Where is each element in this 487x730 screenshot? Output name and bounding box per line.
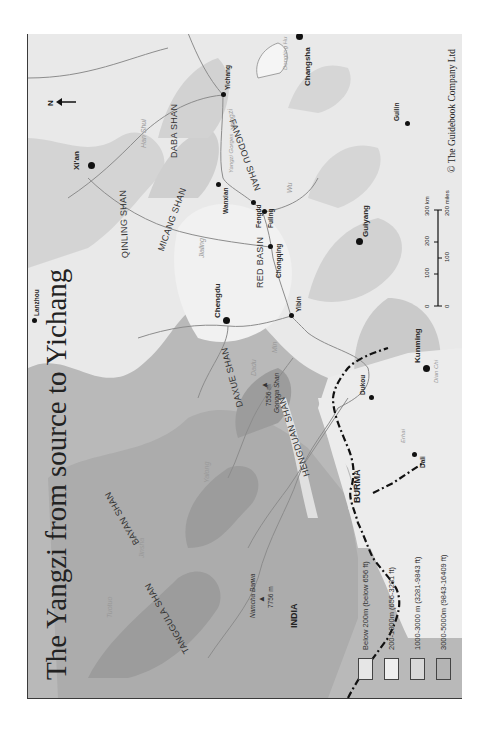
city-label-wanxian: Wanxian [223,188,230,215]
river-label-wu: Wu [286,183,293,194]
city-dot-xian [88,162,95,169]
legend-swatch-1000-3000 [410,658,425,680]
scale-km-tick-0: 0 [424,305,430,308]
city-label-yichang: Yichang [225,65,232,90]
city-dot-yibin [289,313,294,318]
scale-km-tick-300: 300 km [424,196,430,216]
north-arrow-icon [56,96,76,108]
scale-mile-tick-100: 100 [444,252,450,262]
city-label-yibin: Yibin [296,296,303,312]
scale-mile-tick-0: 0 [444,305,450,308]
river-label-jialing: Jialing [198,238,205,258]
range-label-red-basin: RED BASIN [256,237,265,288]
scale-km-tick-200: 200 [424,236,430,246]
range-label-daba-shan: DABA SHAN [170,104,179,158]
city-dot-chengdu [223,317,230,324]
peak-height-gongga: 7556 m [266,384,273,406]
city-label-chengdu: Chengdu [214,283,222,318]
legend-label-200-1000: 200-1000m (656-3281 ft) [387,567,396,650]
city-dot-kunming [423,365,430,372]
river-label-dongting-hu: Dongting Hu [282,37,288,70]
map-frame: The Yangzi from source to Yichang © The … [27,34,462,699]
elevation-legend: Below 200m (below 656 ft) 200-1000m (656… [28,558,462,698]
river-label-han-shui: Han Shui [140,119,147,148]
scale-bar: 0 100 200 300 km 0 100 200 miles [424,208,454,308]
city-label-fengdu: Fengdu [256,205,263,228]
city-label-fuling: Fuling [268,209,275,229]
map-canvas: The Yangzi from source to Yichang © The … [27,34,462,699]
city-label-kunming: Kunming [414,328,422,363]
city-dot-dukou [369,395,374,400]
city-label-guiyang: Guiyang [362,205,370,237]
city-label-dukou: Dukou [360,375,367,395]
legend-label-3000-5000: 3000-5000m (9843-16409 ft) [439,555,448,650]
river-label-jinsha: Jinsha [138,538,145,558]
city-label-changsha: Changsha [304,47,312,86]
city-dot-yichang [221,92,226,97]
river-label-min: Min [271,342,278,353]
city-dot-chongqing [268,244,273,249]
legend-swatch-3000-5000 [436,658,451,680]
legend-label-1000-3000: 1000-3000 m (3281-9843 ft) [413,557,422,650]
river-label-erhai: Erhai [400,429,406,443]
city-dot-guilin [405,121,410,126]
river-label-dian-chi: Dian Chi [433,360,439,383]
city-label-dali: Dali [420,456,427,468]
legend-swatch-200-1000 [384,658,399,680]
legend-label-below-200: Below 200m (below 656 ft) [361,561,370,650]
river-label-dadu: Dadu [250,359,257,376]
city-label-lanzhou: Lanzhou [34,289,41,316]
city-label-chongqing: Chongqing [276,244,283,278]
city-dot-guiyang [356,238,363,245]
scale-km-tick-100: 100 [424,268,430,278]
city-label-xian: Xi'an [73,151,81,170]
river-label-yangzi-gorges: Yangzi Gorges [228,134,234,173]
country-label-burma: BURMA [353,470,362,504]
scale-mile-tick-200: 200 miles [444,190,450,216]
city-label-guilin: Guilin [394,103,401,121]
north-label: N [46,100,55,106]
city-dot-wanxian [216,182,221,187]
legend-swatch-below-200 [358,658,373,680]
peak-label-gongga: Gongga Shan [274,373,281,413]
river-label-yalong: Yalong [203,462,210,483]
copyright-notice: © The Guidebook Company Ltd [447,49,457,173]
city-dot-dali [412,452,417,457]
city-dot-lanzhou [32,318,37,323]
